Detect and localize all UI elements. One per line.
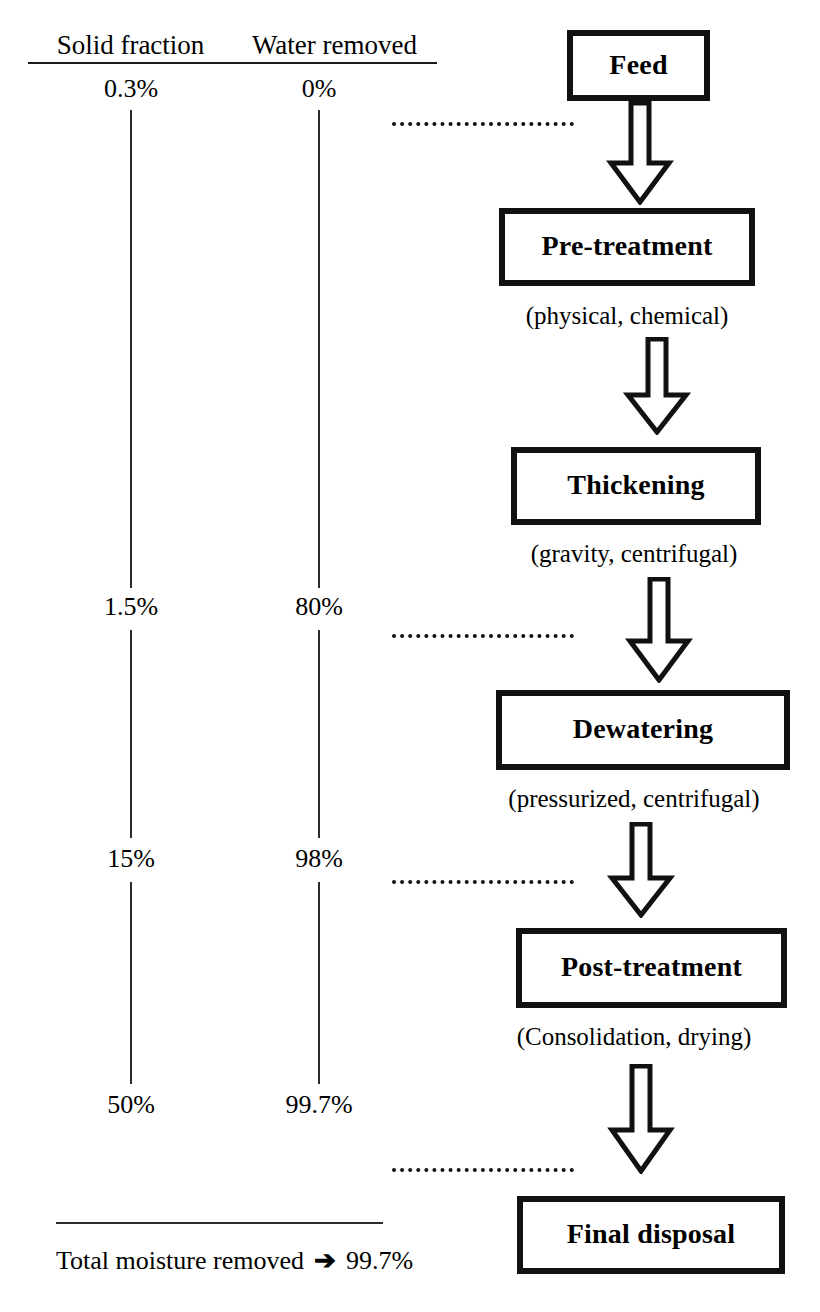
process-caption-post-treatment: (Consolidation, drying) — [452, 1024, 816, 1049]
summary-label: Total moisture removed — [56, 1248, 304, 1274]
water-removed-value-1: 80% — [248, 594, 390, 620]
flow-arrow-pre-treatment-to-thickening — [620, 337, 694, 435]
dotted-leader-dewatering — [392, 880, 574, 884]
process-box-label-final-disposal: Final disposal — [567, 1220, 736, 1248]
flow-arrow-dewatering-to-post-treatment — [604, 822, 678, 918]
process-box-label-pre-treatment: Pre-treatment — [541, 232, 712, 260]
solid-fraction-value-2: 15% — [60, 846, 202, 872]
total-moisture-removed-summary: Total moisture removed ➔ 99.7% — [56, 1248, 413, 1274]
dotted-leader-feed — [392, 122, 574, 126]
process-box-label-dewatering: Dewatering — [573, 715, 713, 743]
solid-fraction-scale-line-3 — [130, 882, 132, 1084]
water-removed-value-0: 0% — [248, 76, 390, 102]
solid-fraction-value-1: 1.5% — [60, 594, 202, 620]
summary-divider-rule — [56, 1222, 383, 1224]
process-box-feed[interactable]: Feed — [567, 30, 710, 101]
water-removed-scale-line-2 — [318, 630, 320, 838]
solid-fraction-scale-line-1 — [130, 110, 132, 588]
process-caption-pre-treatment: (physical, chemical) — [459, 303, 795, 328]
process-box-label-thickening: Thickening — [567, 471, 704, 499]
process-box-final-disposal[interactable]: Final disposal — [517, 1196, 785, 1274]
process-box-dewatering[interactable]: Dewatering — [496, 690, 790, 770]
summary-value: 99.7% — [346, 1248, 413, 1274]
process-box-pre-treatment[interactable]: Pre-treatment — [499, 208, 755, 286]
solid-fraction-scale-line-2 — [130, 630, 132, 838]
column-header-water-removed: Water removed — [232, 30, 437, 64]
process-box-label-post-treatment: Post-treatment — [561, 953, 742, 981]
water-removed-scale-line-3 — [318, 882, 320, 1084]
right-arrow-icon: ➔ — [314, 1248, 336, 1274]
flow-arrow-post-treatment-to-final-disposal — [604, 1064, 678, 1174]
solid-fraction-value-3: 50% — [60, 1092, 202, 1118]
water-removed-value-2: 98% — [248, 846, 390, 872]
process-box-post-treatment[interactable]: Post-treatment — [516, 928, 787, 1008]
flow-arrow-feed-to-pre-treatment — [603, 101, 677, 205]
dotted-leader-post-treatment — [392, 1168, 574, 1172]
solid-fraction-value-0: 0.3% — [60, 76, 202, 102]
flow-arrow-thickening-to-dewatering — [622, 577, 696, 683]
process-box-thickening[interactable]: Thickening — [511, 447, 761, 525]
column-header-solid-fraction: Solid fraction — [28, 30, 233, 64]
water-removed-value-3: 99.7% — [248, 1092, 390, 1118]
process-caption-dewatering: (pressurized, centrifugal) — [452, 786, 816, 811]
water-removed-scale-line-1 — [318, 110, 320, 588]
process-box-label-feed: Feed — [609, 51, 667, 79]
process-flow-diagram: Solid fraction Water removed 0.3% 1.5% 1… — [0, 0, 820, 1312]
process-caption-thickening: (gravity, centrifugal) — [462, 541, 806, 566]
dotted-leader-thickening — [392, 634, 574, 638]
